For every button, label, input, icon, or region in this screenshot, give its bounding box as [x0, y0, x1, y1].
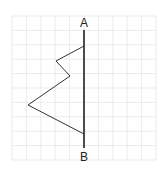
symmetry-diagram: A B — [0, 0, 167, 173]
label-a: A — [80, 16, 88, 30]
label-b: B — [80, 150, 88, 164]
